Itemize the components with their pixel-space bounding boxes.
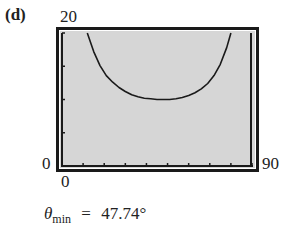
theta-subscript: min [52,212,71,226]
theta-min-value: 47.74° [101,204,146,223]
theta-min-result: θmin = 47.74° [44,204,146,227]
equals-sign: = [81,204,91,223]
